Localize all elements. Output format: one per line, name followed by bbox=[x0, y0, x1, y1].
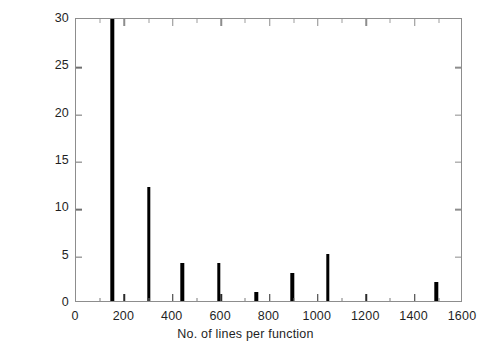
histogram-figure: 02004006008001000120014001600 0510152025… bbox=[0, 0, 491, 350]
bar bbox=[111, 19, 114, 301]
x-tick-minor bbox=[148, 298, 149, 302]
y-tick-label: 15 bbox=[55, 153, 69, 167]
x-tick-major bbox=[172, 294, 174, 301]
x-tick-minor bbox=[245, 298, 246, 302]
x-tick-major-top bbox=[414, 19, 416, 26]
x-tick-major-top bbox=[366, 19, 368, 26]
x-tick-label: 200 bbox=[113, 309, 134, 323]
x-tick-label: 1600 bbox=[448, 309, 477, 323]
bars-layer bbox=[76, 19, 461, 301]
plot-area bbox=[75, 18, 462, 302]
y-tick-major-right bbox=[455, 162, 461, 163]
x-axis-title: No. of lines per function bbox=[0, 327, 491, 341]
x-tick-minor bbox=[342, 298, 343, 302]
x-tick-minor-top bbox=[342, 19, 343, 23]
y-tick-major bbox=[76, 209, 82, 210]
x-tick-minor bbox=[196, 298, 197, 302]
x-tick-major bbox=[220, 294, 222, 301]
y-tick-major bbox=[76, 162, 82, 163]
x-tick-minor-top bbox=[390, 19, 391, 23]
x-tick-minor-top bbox=[148, 19, 149, 23]
x-tick-label: 1200 bbox=[351, 309, 380, 323]
x-tick-major-top bbox=[317, 19, 319, 26]
x-tick-label: 600 bbox=[209, 309, 230, 323]
bar bbox=[181, 263, 184, 301]
x-tick-label: 400 bbox=[161, 309, 182, 323]
x-tick-minor bbox=[390, 298, 391, 302]
x-tick-label: 1400 bbox=[399, 309, 428, 323]
y-tick-label: 10 bbox=[55, 200, 69, 214]
y-tick-label: 0 bbox=[62, 295, 69, 309]
y-tick-major bbox=[76, 67, 82, 68]
x-tick-major-top bbox=[220, 19, 222, 26]
x-tick-minor-top bbox=[196, 19, 197, 23]
x-tick-label: 800 bbox=[258, 309, 279, 323]
x-tick-major bbox=[124, 294, 126, 301]
x-tick-minor bbox=[438, 298, 439, 302]
x-tick-minor-top bbox=[245, 19, 246, 23]
bar bbox=[147, 187, 150, 301]
x-tick-minor-top bbox=[438, 19, 439, 23]
y-tick-major-right bbox=[455, 67, 461, 68]
y-tick-major bbox=[76, 114, 82, 115]
y-tick-label: 20 bbox=[55, 106, 69, 120]
x-tick-minor bbox=[293, 298, 294, 302]
y-tick-label: 25 bbox=[55, 58, 69, 72]
y-tick-major-right bbox=[455, 114, 461, 115]
x-tick-minor-top bbox=[293, 19, 294, 23]
y-tick-major-right bbox=[455, 209, 461, 210]
x-tick-major bbox=[269, 294, 271, 301]
x-tick-major bbox=[317, 294, 319, 301]
y-tick-label: 5 bbox=[62, 248, 69, 262]
x-tick-minor bbox=[100, 298, 101, 302]
bar bbox=[254, 292, 257, 301]
x-tick-major bbox=[366, 294, 368, 301]
y-tick-major bbox=[76, 256, 82, 257]
y-tick-label: 30 bbox=[55, 11, 69, 25]
x-tick-label: 0 bbox=[71, 309, 78, 323]
x-tick-major bbox=[414, 294, 416, 301]
x-tick-label: 1000 bbox=[303, 309, 332, 323]
bar bbox=[326, 254, 329, 301]
x-tick-minor-top bbox=[100, 19, 101, 23]
x-tick-major-top bbox=[124, 19, 126, 26]
y-tick-major-right bbox=[455, 256, 461, 257]
x-tick-major-top bbox=[269, 19, 271, 26]
x-tick-major-top bbox=[172, 19, 174, 26]
